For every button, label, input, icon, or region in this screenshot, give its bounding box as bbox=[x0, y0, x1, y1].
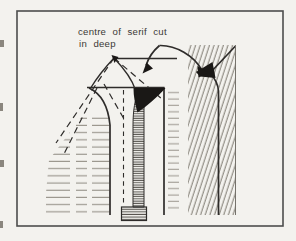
deep-cut-fill-left bbox=[134, 88, 166, 113]
annotation-line-2: in deep bbox=[79, 38, 116, 49]
scan-artifact bbox=[0, 40, 4, 47]
pointer-arrowhead-left-icon bbox=[143, 63, 154, 74]
scan-artifact bbox=[0, 160, 4, 167]
between-stems-hatching bbox=[166, 89, 180, 213]
scanned-figure-page: centre of serif cut in deep bbox=[0, 0, 296, 241]
serif-cut-diagram: centre of serif cut in deep bbox=[0, 0, 296, 241]
serif-apex-left-curve bbox=[91, 58, 114, 88]
pointer-arrow-left bbox=[146, 46, 160, 66]
dashed-construction-line bbox=[104, 84, 124, 119]
stem-foot-block bbox=[122, 207, 147, 221]
scan-artifact bbox=[0, 221, 3, 228]
left-background-hatching bbox=[44, 116, 110, 215]
annotation-line-1: centre of serif cut bbox=[78, 26, 167, 37]
scan-artifact bbox=[0, 103, 3, 111]
